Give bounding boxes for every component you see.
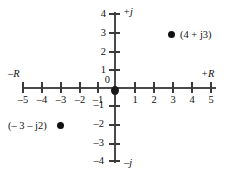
data-point-label: (4 + j3) — [180, 30, 212, 41]
x-tick-label-1: 1 — [125, 95, 145, 106]
x-tick--5 — [22, 82, 24, 93]
y-tick-label-4: 4 — [86, 9, 106, 20]
origin-label: 0 — [98, 75, 110, 86]
y-tick-label-1: 1 — [86, 65, 106, 76]
y-tick-label-3: 3 — [86, 28, 106, 39]
x-tick--4 — [41, 82, 43, 93]
axis-caption-negative-imaginary: –j — [124, 158, 132, 169]
axis-caption-positive-real: +R — [201, 69, 215, 80]
y-tick-label--3: –3 — [84, 138, 104, 149]
axis-caption-positive-imaginary: +j — [123, 7, 133, 18]
x-tick-4 — [191, 82, 193, 93]
y-tick--4 — [109, 160, 120, 162]
axis-caption-negative-real: –R — [8, 69, 20, 80]
x-tick-3 — [172, 82, 174, 93]
y-tick-label-2: 2 — [86, 47, 106, 58]
y-tick-1 — [109, 69, 120, 71]
data-point-label: (– 3 – j2) — [8, 121, 47, 132]
y-tick-label--2: –2 — [84, 119, 104, 130]
y-tick-3 — [109, 32, 120, 34]
x-tick-5 — [210, 82, 212, 93]
x-tick-label-5: 5 — [201, 95, 221, 106]
x-tick-1 — [134, 82, 136, 93]
argand-diagram-figure: –5 –4 –3 –2 –1 1 2 3 4 5 4 3 2 1 –1 –2 –… — [0, 0, 239, 175]
y-tick-label--4: –4 — [84, 156, 104, 167]
y-tick-label--1: –1 — [84, 100, 104, 111]
y-tick--2 — [109, 124, 120, 126]
x-tick-2 — [153, 82, 155, 93]
x-tick-label--3: –3 — [51, 95, 71, 106]
y-tick--3 — [109, 143, 120, 145]
x-tick-label-4: 4 — [182, 95, 202, 106]
data-point-marker — [168, 31, 175, 38]
y-tick-4 — [109, 13, 120, 15]
y-tick--1 — [109, 105, 120, 107]
y-tick-2 — [109, 51, 120, 53]
x-tick-label-3: 3 — [163, 95, 183, 106]
x-tick--3 — [60, 82, 62, 93]
x-tick-label-2: 2 — [144, 95, 164, 106]
data-point-marker — [57, 122, 64, 129]
x-tick--2 — [79, 82, 81, 93]
real-axis-line — [22, 87, 216, 89]
x-tick-label--4: –4 — [32, 95, 52, 106]
x-tick-label--5: –5 — [13, 95, 33, 106]
origin-marker — [111, 86, 119, 95]
